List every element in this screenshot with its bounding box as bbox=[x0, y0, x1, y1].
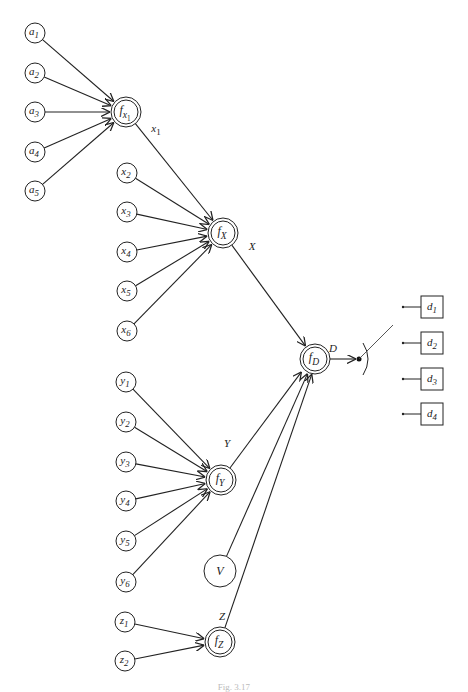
edge-y2-fY bbox=[135, 427, 208, 471]
variable-node-x6: x6 bbox=[117, 321, 137, 341]
switch-arm bbox=[359, 325, 393, 359]
variable-node-y3: y3 bbox=[116, 452, 136, 472]
edge-x4-fX bbox=[137, 236, 207, 250]
edge-fZ-fD bbox=[225, 374, 312, 628]
variable-node-a3: a3 bbox=[25, 102, 45, 122]
variable-node-a2: a2 bbox=[25, 63, 45, 83]
edge-fY-fD bbox=[230, 372, 301, 468]
edge-fx1-fX bbox=[135, 124, 213, 221]
function-node-fZ: fZ bbox=[205, 627, 235, 657]
variable-node-z2: z2 bbox=[115, 651, 135, 671]
variable-node-y4: y4 bbox=[116, 491, 136, 511]
chance-node-V: V bbox=[204, 555, 236, 587]
variable-node-z1: z1 bbox=[115, 612, 135, 632]
variable-node-a1: a1 bbox=[25, 23, 45, 43]
decision-box-d1: d1 bbox=[402, 296, 443, 318]
decision-box-d4: d4 bbox=[402, 403, 443, 425]
edge-a1-fx1 bbox=[43, 40, 114, 102]
edge-label-fZ: Z bbox=[219, 610, 226, 622]
edge-label-fD: D bbox=[328, 342, 337, 354]
decision-network-diagram: a1a2a3a4a5x2x3x4x5x6y1y2y3y4y5y6z1z2fx1f… bbox=[0, 0, 468, 692]
decision-box-d2: d2 bbox=[402, 332, 443, 354]
variable-node-y2: y2 bbox=[116, 412, 136, 432]
variable-node-a4: a4 bbox=[25, 142, 45, 162]
figure-caption: Fig. 3.17 bbox=[0, 682, 468, 692]
edge-label-fx1: x1 bbox=[150, 122, 160, 137]
variable-node-x5: x5 bbox=[117, 281, 137, 301]
edge-label-fX: X bbox=[248, 240, 257, 252]
function-node-fY: fY bbox=[206, 465, 236, 495]
variable-node-x2: x2 bbox=[117, 163, 137, 183]
edge-y5-fY bbox=[134, 489, 207, 536]
decision-panel: d1d2d3d4 bbox=[357, 296, 444, 425]
variable-node-y6: y6 bbox=[116, 572, 136, 592]
variable-node-y5: y5 bbox=[116, 531, 136, 551]
edge-V-fD bbox=[226, 374, 307, 557]
decision-box-d3: d3 bbox=[402, 368, 443, 390]
function-node-fx1: fx1 bbox=[111, 97, 141, 127]
switch-arc bbox=[363, 343, 368, 375]
function-node-fD: fD bbox=[300, 344, 330, 374]
nodes: a1a2a3a4a5x2x3x4x5x6y1y2y3y4y5y6z1z2fx1f… bbox=[25, 23, 330, 671]
edge-label-fY: Y bbox=[224, 437, 232, 449]
variable-node-y1: y1 bbox=[116, 372, 136, 392]
edge-y6-fY bbox=[133, 492, 210, 575]
edge-fX-fD bbox=[232, 245, 306, 346]
variable-node-a5: a5 bbox=[25, 181, 45, 201]
variable-node-x3: x3 bbox=[117, 202, 137, 222]
edge-y1-fY bbox=[133, 389, 210, 468]
edge-a2-fx1 bbox=[44, 77, 111, 106]
edge-x6-fX bbox=[134, 244, 212, 323]
edge-z2-fZ bbox=[135, 645, 205, 659]
function-node-fX: fX bbox=[208, 218, 238, 248]
edge-y3-fY bbox=[136, 464, 205, 477]
edge-a5-fx1 bbox=[43, 122, 114, 184]
edge-z1-fZ bbox=[135, 624, 205, 639]
variable-node-x4: x4 bbox=[117, 242, 137, 262]
